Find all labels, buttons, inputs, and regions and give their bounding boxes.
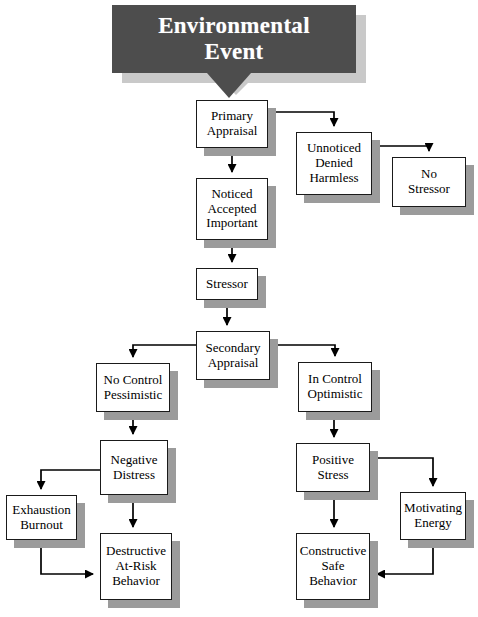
- node-label-secondary-appraisal: Secondary Appraisal: [206, 341, 261, 371]
- node-negative-distress[interactable]: Negative Distress: [100, 440, 168, 495]
- node-exhaustion-burnout[interactable]: Exhaustion Burnout: [6, 495, 77, 540]
- node-destructive-at-risk-behavior[interactable]: Destructive At-Risk Behavior: [100, 533, 172, 600]
- edge-secondary-to-incontrol: [270, 345, 335, 356]
- node-secondary-appraisal[interactable]: Secondary Appraisal: [196, 331, 270, 380]
- node-positive-stress[interactable]: Positive Stress: [296, 443, 370, 492]
- node-label-motivating-energy: Motivating Energy: [404, 501, 462, 531]
- node-label-no-control-pessimistic: No Control Pessimistic: [104, 373, 163, 403]
- node-label-negative-distress: Negative Distress: [111, 453, 158, 483]
- node-stressor[interactable]: Stressor: [196, 268, 258, 300]
- header-banner-notch: [207, 73, 251, 98]
- node-label-constructive-safe-behavior: Constructive Safe Behavior: [300, 544, 366, 588]
- node-label-positive-stress: Positive Stress: [312, 453, 354, 483]
- node-label-destructive-at-risk-behavior: Destructive At-Risk Behavior: [106, 544, 166, 588]
- flowchart-diagram: Environmental Event Primary Appraisal Un…: [0, 0, 478, 617]
- node-label-exhaustion-burnout: Exhaustion Burnout: [12, 503, 71, 533]
- node-in-control-optimistic[interactable]: In Control Optimistic: [298, 362, 372, 412]
- edge-positive-to-motivating: [370, 458, 433, 486]
- node-unnoticed-denied-harmless[interactable]: Unnoticed Denied Harmless: [296, 132, 372, 195]
- node-motivating-energy[interactable]: Motivating Energy: [400, 492, 466, 540]
- edge-unnoticed-to-nostressor: [372, 146, 429, 151]
- node-no-stressor[interactable]: No Stressor: [392, 157, 466, 207]
- node-primary-appraisal[interactable]: Primary Appraisal: [196, 100, 268, 148]
- node-label-primary-appraisal: Primary Appraisal: [207, 109, 258, 139]
- edge-secondary-to-nocontrol: [133, 345, 196, 357]
- node-label-no-stressor: No Stressor: [408, 167, 450, 197]
- node-label-noticed-accepted-important: Noticed Accepted Important: [206, 187, 257, 231]
- header-banner: Environmental Event: [112, 5, 356, 73]
- edge-negative-to-exhaustion: [41, 470, 100, 489]
- header-banner-label: Environmental Event: [158, 13, 310, 65]
- node-noticed-accepted-important[interactable]: Noticed Accepted Important: [196, 178, 268, 240]
- node-no-control-pessimistic[interactable]: No Control Pessimistic: [96, 363, 170, 412]
- node-constructive-safe-behavior[interactable]: Constructive Safe Behavior: [296, 533, 370, 600]
- node-label-in-control-optimistic: In Control Optimistic: [308, 372, 363, 402]
- node-label-unnoticed-denied-harmless: Unnoticed Denied Harmless: [307, 141, 361, 185]
- edge-primary-to-unnoticed: [268, 112, 334, 126]
- node-label-stressor: Stressor: [206, 277, 248, 292]
